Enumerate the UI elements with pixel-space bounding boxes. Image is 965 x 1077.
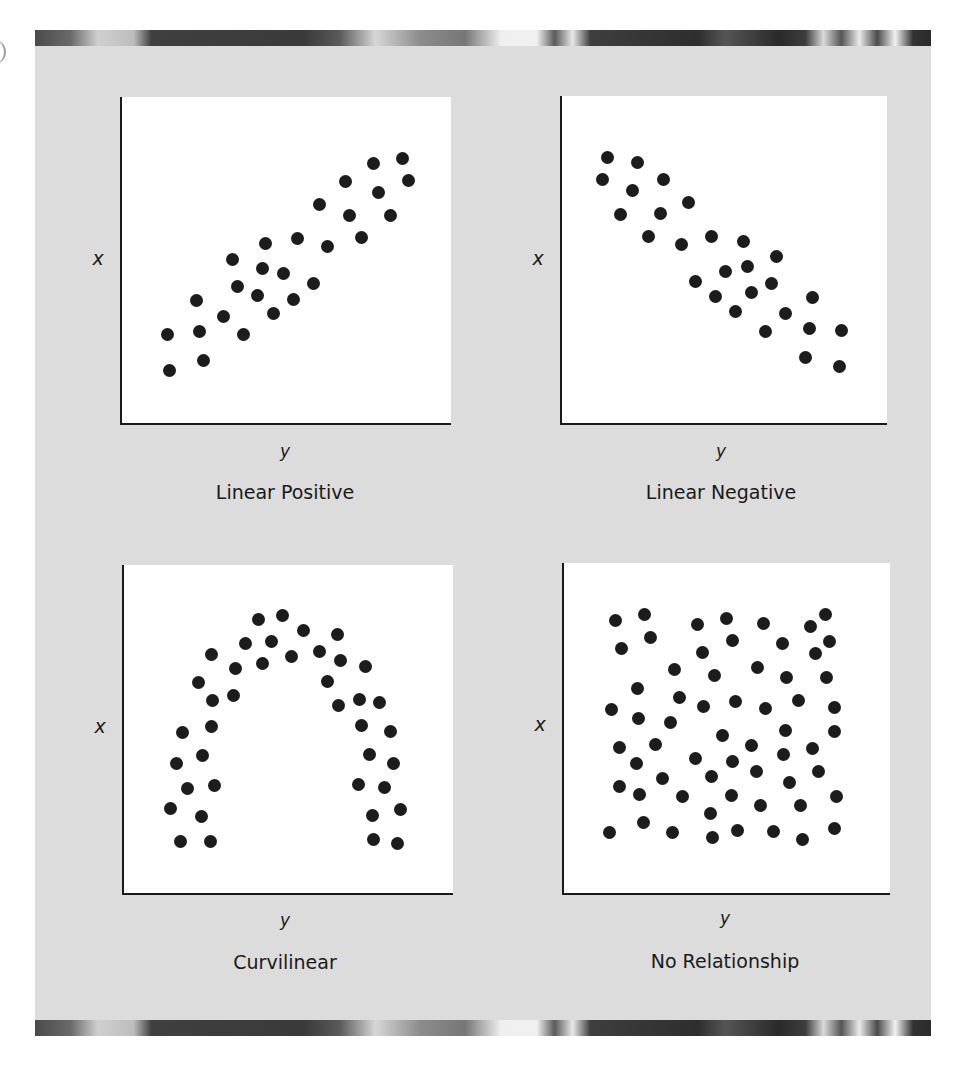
data-point	[783, 776, 796, 789]
data-point	[205, 648, 218, 661]
data-point	[770, 250, 783, 263]
data-point	[204, 835, 217, 848]
data-point	[697, 700, 710, 713]
y-axis-label: y	[280, 910, 290, 930]
data-point	[777, 748, 790, 761]
data-point	[716, 729, 729, 742]
data-point	[759, 702, 772, 715]
data-point	[796, 833, 809, 846]
data-point	[745, 739, 758, 752]
data-point	[614, 208, 627, 221]
plot-area	[560, 96, 887, 425]
data-point	[256, 262, 269, 275]
plot-area	[122, 565, 453, 895]
data-point	[313, 645, 326, 658]
data-point	[372, 186, 385, 199]
data-point	[287, 293, 300, 306]
data-point	[363, 748, 376, 761]
data-point	[820, 671, 833, 684]
data-point	[205, 720, 218, 733]
plot-area	[120, 97, 451, 425]
data-point	[731, 824, 744, 837]
data-point	[666, 826, 679, 839]
data-point	[161, 328, 174, 341]
data-point	[174, 835, 187, 848]
data-point	[164, 802, 177, 815]
data-point	[196, 749, 209, 762]
data-point	[804, 620, 817, 633]
data-point	[631, 682, 644, 695]
data-point	[267, 307, 280, 320]
data-point	[181, 782, 194, 795]
data-point	[297, 624, 310, 637]
data-point	[657, 173, 670, 186]
data-point	[799, 351, 812, 364]
data-point	[227, 689, 240, 702]
x-axis-label: x	[532, 247, 543, 269]
data-point	[720, 612, 733, 625]
y-axis-label: y	[716, 441, 726, 461]
x-axis-label: x	[94, 715, 105, 737]
data-point	[750, 765, 763, 778]
data-point	[638, 608, 651, 621]
data-point	[226, 253, 239, 266]
panel-title: Curvilinear	[233, 951, 336, 973]
data-point	[603, 826, 616, 839]
data-point	[754, 799, 767, 812]
plot-area	[562, 563, 890, 895]
data-point	[806, 742, 819, 755]
data-point	[339, 175, 352, 188]
data-point	[343, 209, 356, 222]
data-point	[373, 696, 386, 709]
data-point	[664, 716, 677, 729]
data-point	[780, 671, 793, 684]
data-point	[776, 637, 789, 650]
data-point	[819, 608, 832, 621]
data-point	[705, 230, 718, 243]
data-point	[394, 803, 407, 816]
data-point	[745, 286, 758, 299]
data-point	[812, 765, 825, 778]
decorative-stripe-top	[35, 30, 931, 46]
data-point	[384, 209, 397, 222]
data-point	[676, 790, 689, 803]
data-point	[642, 230, 655, 243]
data-point	[355, 719, 368, 732]
data-point	[605, 703, 618, 716]
data-point	[277, 267, 290, 280]
data-point	[779, 307, 792, 320]
data-point	[609, 614, 622, 627]
data-point	[307, 277, 320, 290]
data-point	[231, 280, 244, 293]
data-point	[633, 788, 646, 801]
data-point	[689, 275, 702, 288]
data-point	[726, 755, 739, 768]
data-point	[833, 360, 846, 373]
data-point	[313, 198, 326, 211]
x-axis-label: x	[92, 247, 103, 269]
data-point	[291, 232, 304, 245]
data-point	[637, 816, 650, 829]
data-point	[613, 780, 626, 793]
data-point	[779, 724, 792, 737]
panel-title: No Relationship	[651, 950, 800, 972]
data-point	[835, 324, 848, 337]
data-point	[229, 662, 242, 675]
data-point	[387, 757, 400, 770]
data-point	[613, 741, 626, 754]
data-point	[675, 238, 688, 251]
data-point	[170, 757, 183, 770]
data-point	[725, 789, 738, 802]
data-point	[367, 157, 380, 170]
data-point	[197, 354, 210, 367]
data-point	[751, 661, 764, 674]
data-point	[806, 291, 819, 304]
data-point	[656, 772, 669, 785]
data-point	[803, 322, 816, 335]
data-point	[332, 699, 345, 712]
data-point	[251, 289, 264, 302]
data-point	[190, 294, 203, 307]
data-point	[208, 779, 221, 792]
data-point	[378, 781, 391, 794]
data-point	[704, 807, 717, 820]
